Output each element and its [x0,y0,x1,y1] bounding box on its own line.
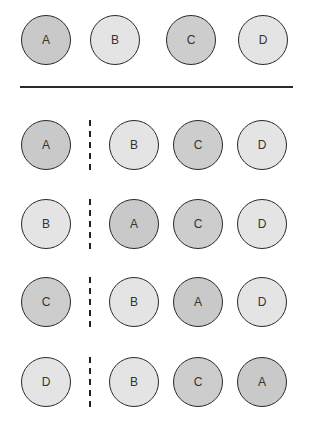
dashed-separator [89,120,93,170]
dashed-separator [89,277,93,327]
circle-d: D [238,15,288,65]
circle-b: B [109,357,159,407]
circle-a: A [173,277,223,327]
circle-c: C [21,277,71,327]
circle-c: C [173,199,223,249]
circle-a: A [21,15,71,65]
circle-d: D [237,199,287,249]
circle-b: B [90,15,140,65]
dashed-separator [89,199,93,249]
circle-d: D [21,357,71,407]
circle-b: B [109,120,159,170]
circle-b: B [109,277,159,327]
circle-a: A [21,120,71,170]
dashed-separator [89,357,93,407]
circle-c: C [173,357,223,407]
circle-a: A [109,199,159,249]
circle-d: D [237,120,287,170]
circle-c: C [173,120,223,170]
circle-c: C [166,15,216,65]
horizontal-divider [20,86,293,88]
circle-a: A [237,357,287,407]
circle-d: D [237,277,287,327]
circle-b: B [21,199,71,249]
